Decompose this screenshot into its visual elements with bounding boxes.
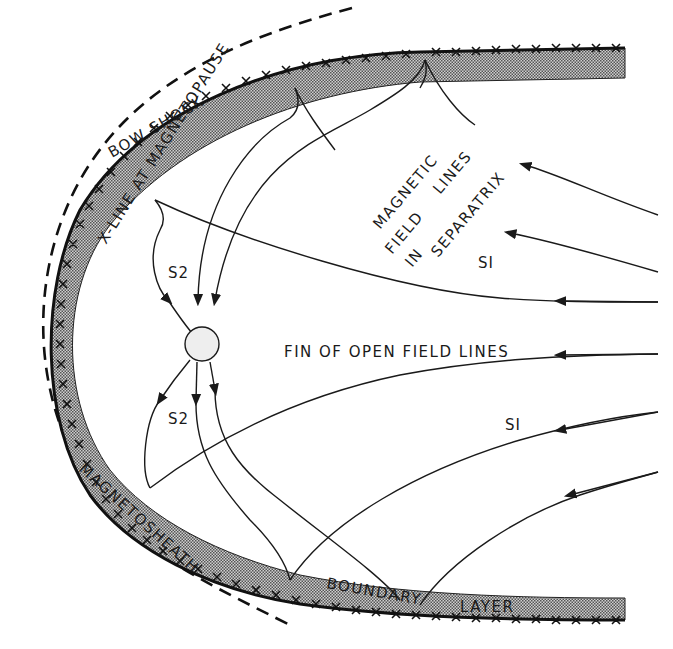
label-s2-upper: S2 (168, 264, 189, 282)
label-in: IN (401, 245, 427, 271)
label-s1-lower: SI (505, 416, 521, 434)
upper-s1-lines (510, 165, 658, 272)
label-lines: LINES (429, 147, 475, 197)
magnetosphere-diagram: BOW SHOCK X-LINE AT MAGNETOPAUSE MAGNETI… (0, 0, 673, 649)
label-fin: FIN OF OPEN FIELD LINES (284, 343, 509, 361)
label-magnetosheath: MAGNETOSHEATH (75, 460, 203, 577)
label-s2-lower: S2 (168, 410, 189, 428)
neutral-point-circle (185, 327, 219, 361)
labels: BOW SHOCK X-LINE AT MAGNETOPAUSE MAGNETI… (75, 39, 521, 616)
diagram-canvas: BOW SHOCK X-LINE AT MAGNETOPAUSE MAGNETI… (0, 0, 673, 649)
label-layer: LAYER (460, 598, 514, 616)
label-s1-upper: SI (478, 254, 494, 272)
